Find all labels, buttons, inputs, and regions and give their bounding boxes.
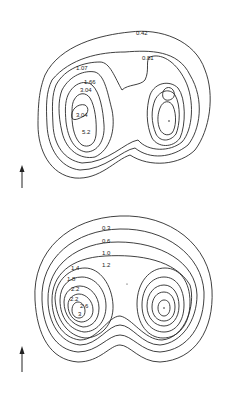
svg-text:1.66: 1.66 bbox=[84, 79, 96, 85]
svg-text:3: 3 bbox=[78, 311, 82, 317]
top-contour-map: 0.42 0.81 1.07 1.66 3.04 3.04 5.2 bbox=[20, 30, 211, 188]
svg-text:0.42: 0.42 bbox=[136, 30, 148, 36]
svg-text:3.04: 3.04 bbox=[76, 112, 88, 118]
svg-text:0.81: 0.81 bbox=[142, 55, 154, 61]
svg-text:0.3: 0.3 bbox=[102, 225, 111, 231]
svg-text:1.4: 1.4 bbox=[71, 265, 80, 271]
svg-text:2.2: 2.2 bbox=[70, 296, 79, 302]
bottom-contour-map: 0.3 0.6 1.0 1.2 1.4 1.8 2.2 2.2 2.6 3 bbox=[20, 216, 213, 372]
contour-diagrams: 0.42 0.81 1.07 1.66 3.04 3.04 5.2 0.3 0.… bbox=[0, 0, 233, 395]
svg-text:1.07: 1.07 bbox=[76, 65, 88, 71]
svg-text:1.2: 1.2 bbox=[102, 262, 111, 268]
svg-text:2.2: 2.2 bbox=[71, 286, 80, 292]
svg-text:0.6: 0.6 bbox=[102, 238, 111, 244]
north-arrow bbox=[20, 346, 25, 372]
north-arrow bbox=[20, 165, 25, 188]
svg-text:1.0: 1.0 bbox=[102, 250, 111, 256]
svg-text:1.8: 1.8 bbox=[67, 276, 76, 282]
svg-text:3.04: 3.04 bbox=[80, 87, 92, 93]
svg-text:5.2: 5.2 bbox=[82, 129, 91, 135]
svg-text:2.6: 2.6 bbox=[80, 303, 89, 309]
